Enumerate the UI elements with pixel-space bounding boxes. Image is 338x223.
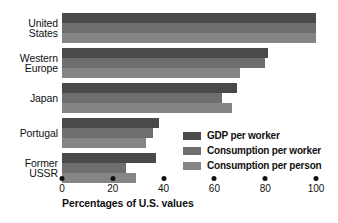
x-axis-tick-dot xyxy=(161,176,166,181)
x-axis-title: Percentages of U.S. values xyxy=(62,198,194,209)
x-axis-tick-label: 0 xyxy=(59,184,65,194)
legend-swatch xyxy=(183,147,201,155)
x-axis-tick-dot xyxy=(60,176,65,181)
x-axis-tick-label: 60 xyxy=(209,184,220,194)
legend-item: Consumption per person xyxy=(183,159,322,173)
legend-item: GDP per worker xyxy=(183,129,322,143)
x-axis-tick-dot xyxy=(263,176,268,181)
x-axis-tick-dot xyxy=(110,176,115,181)
legend-label: GDP per worker xyxy=(207,131,280,141)
legend-label: Consumption per person xyxy=(207,161,322,171)
legend-label: Consumption per worker xyxy=(207,146,321,156)
x-axis-tick-label: 40 xyxy=(158,184,169,194)
x-axis-tick-dot xyxy=(212,176,217,181)
legend-swatch xyxy=(183,162,201,170)
x-axis: 020406080100 xyxy=(0,0,338,223)
legend-item: Consumption per worker xyxy=(183,144,322,158)
legend-swatch xyxy=(183,132,201,140)
bar-chart: UnitedStatesWesternEuropeJapanPortugalFo… xyxy=(0,0,338,223)
x-axis-tick-label: 20 xyxy=(107,184,118,194)
chart-legend: GDP per workerConsumption per workerCons… xyxy=(183,129,322,174)
x-axis-tick-dot xyxy=(314,176,319,181)
x-axis-tick-label: 80 xyxy=(260,184,271,194)
x-axis-tick-label: 100 xyxy=(308,184,325,194)
